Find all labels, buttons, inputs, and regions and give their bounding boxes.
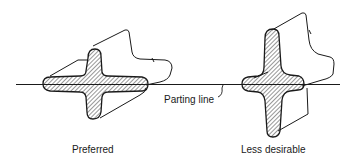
less-desirable-caption: Less desirable bbox=[241, 144, 305, 155]
less-desirable-cross-section bbox=[242, 29, 304, 137]
preferred-cross-section bbox=[43, 49, 148, 119]
parting-line-label: Parting line bbox=[164, 94, 214, 105]
preferred-figure bbox=[43, 30, 172, 119]
parting-line-diagram bbox=[0, 0, 357, 158]
preferred-caption: Preferred bbox=[72, 144, 114, 155]
parting-line-leader bbox=[218, 85, 223, 97]
less-desirable-figure bbox=[242, 13, 334, 137]
